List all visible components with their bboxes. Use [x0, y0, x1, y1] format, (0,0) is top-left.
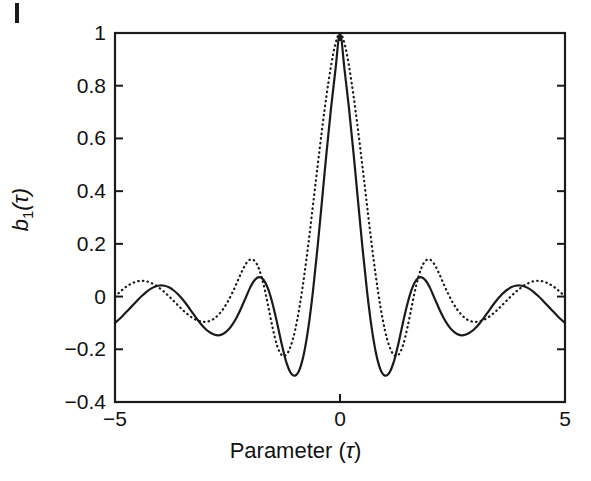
x-axis-label: Parameter (τ) [0, 438, 591, 464]
x-tick-label: −5 [75, 408, 155, 429]
solid-curve [115, 33, 565, 376]
y-axis-label-arg: (τ) [8, 188, 33, 211]
y-tick-label: −0.2 [40, 338, 106, 359]
x-axis-label-suffix: ) [354, 438, 361, 463]
x-tick-label: 0 [300, 408, 380, 429]
x-axis-label-symbol: τ [346, 438, 354, 463]
axes-ticks [115, 33, 565, 402]
y-tick-label: 0.4 [40, 180, 106, 201]
y-tick-label: 0.2 [40, 233, 106, 254]
data-curves [115, 33, 565, 376]
y-axis-label-base: b [8, 219, 33, 231]
y-tick-label: 0 [40, 286, 106, 307]
dotted-curve [115, 33, 565, 356]
y-tick-label: 1 [40, 22, 106, 43]
y-axis-label-subscript: 1 [19, 211, 36, 219]
x-axis-label-text: Parameter ( [230, 438, 346, 463]
y-tick-label: 0.6 [40, 127, 106, 148]
y-axis-label: b1(τ) [8, 162, 35, 258]
axes-frame [115, 33, 565, 402]
x-tick-label: 5 [525, 408, 591, 429]
y-tick-label: 0.8 [40, 75, 106, 96]
figure-container: 1 0.8 0.6 0.4 0.2 0 −0.2 −0.4 −5 0 5 Par… [0, 0, 591, 481]
